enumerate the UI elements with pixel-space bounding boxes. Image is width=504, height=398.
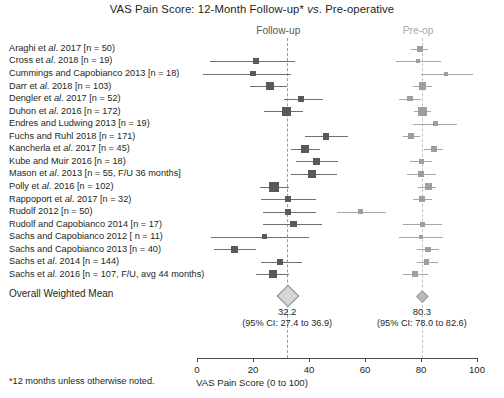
study-marker-preop [419,196,425,202]
study-label-prefix: Dengler et [9,93,54,103]
study-label: Araghi et al. 2017 [n = 50) [9,44,115,53]
study-marker-followup [313,158,320,165]
study-marker-followup [301,145,310,154]
study-marker-preop [412,271,418,277]
study-label-suffix: . 2018 [n = 19) [53,55,113,65]
study-label-prefix: Duhon et [9,106,49,116]
summary-value-followup: 32.2 [247,306,327,317]
study-label-prefix: Endres and Ludwing 2013 [n = 19) [9,118,150,128]
study-label: Cross et al. 2018 [n = 19) [9,56,112,65]
study-label-prefix: Rappoport et [9,194,65,204]
study-label: Cummings and Capobianco 2013 [n = 18) [9,69,179,78]
study-label: Endres and Ludwing 2013 [n = 19) [9,119,150,128]
x-axis-line [197,358,477,359]
study-label-italic: al [65,194,72,204]
study-marker-preop [417,46,423,52]
study-label-prefix: Mason et [9,168,49,178]
column-header-followup: Follow-up [256,25,300,36]
study-label-suffix: . 2016 [n = 172) [56,106,121,116]
study-marker-followup [308,170,316,178]
x-axis-tick-label: 40 [284,364,334,375]
study-marker-preop [418,171,424,177]
study-label-prefix: Fuchs and Ruhl 2018 [n = 171) [9,131,135,141]
study-marker-preop [358,209,363,214]
study-label-italic: al [42,181,49,191]
study-marker-followup [323,133,330,140]
study-marker-preop [419,82,427,90]
study-label-suffix: . 2014 [n = 144) [54,256,119,266]
study-marker-preop [419,159,424,164]
summary-value-preop: 80.3 [382,306,462,317]
study-marker-followup [269,182,279,192]
forest-plot: VAS Pain Score: 12-Month Follow-up* vs. … [0,0,504,398]
study-label-prefix: Kube and Muir 2016 [n = 18) [9,156,126,166]
study-marker-followup [298,96,304,102]
study-label: Sachs and Capobianco 2013 [n = 40) [9,245,161,254]
study-label-suffix: . 2017 [n = 32) [72,194,132,204]
x-axis-tick-label: 60 [340,364,390,375]
study-label-prefix: Rudolf and Capobianco 2014 [n = 17) [9,219,162,229]
study-label: Duhon et al. 2016 [n = 172) [9,107,121,116]
x-axis-tick-label: 100 [452,364,502,375]
study-label: Rudolf 2012 [n = 50) [9,207,93,216]
x-axis-tick-label: 80 [396,364,446,375]
study-label: Kube and Muir 2016 [n = 18) [9,157,126,166]
study-label-italic: al [46,55,53,65]
confidence-interval-followup [203,74,291,75]
study-label-prefix: Araghi et [9,43,48,53]
study-label: Darr et al. 2018 [n = 103) [9,82,111,91]
column-header-preop: Pre-op [403,25,434,36]
x-axis-tick [365,358,366,363]
study-marker-preop [433,121,438,126]
study-marker-followup [269,270,277,278]
study-marker-preop [416,59,421,64]
study-label: Sachs et al. 2014 [n = 144) [9,257,119,266]
study-label-prefix: Sachs and Capobianco 2013 [n = 40) [9,244,161,254]
study-label: Sachs et al. 2016 [n = 107, F/U, avg 44 … [9,270,204,279]
x-axis-tick [197,358,198,363]
summary-diamond-preop [417,290,429,302]
study-label-prefix: Cummings and Capobianco 2013 [n = 18) [9,68,179,78]
study-marker-followup [266,82,274,90]
study-marker-followup [262,234,267,239]
study-label-italic: al [49,168,56,178]
study-label: Sachs and Capobianco 2012 [ n = 11) [9,232,163,241]
study-marker-preop [424,259,430,265]
study-label-suffix: . 2017 [n = 52) [61,93,121,103]
study-label-suffix: . 2016 [n = 107, F/U, avg 44 months) [54,269,204,279]
overall-weighted-mean-label: Overall Weighted Mean [9,288,113,299]
study-label: Mason et al. 2013 [n = 55, F/U 36 months… [9,169,181,178]
study-label-prefix: Kancherla et [9,143,63,153]
study-label: Rappoport et al. 2017 [n = 32) [9,195,131,204]
x-axis-tick [421,358,422,363]
study-marker-followup [285,209,291,215]
title-text-italic: vs [307,3,319,15]
study-label-prefix: Darr et [9,81,40,91]
study-marker-followup [253,58,259,64]
study-label-suffix: . 2017 [n = 50) [55,43,115,53]
study-marker-preop [425,247,431,253]
study-marker-preop [419,235,423,239]
title-text-before: VAS Pain Score: 12-Month Follow-up* [110,3,307,15]
study-label-prefix: Cross et [9,55,46,65]
study-label-suffix: . 2013 [n = 55, F/U 36 months] [57,168,181,178]
study-marker-followup [277,259,283,265]
footnote: *12 months unless otherwise noted. [9,376,155,386]
study-marker-followup [231,246,238,253]
title-text-after: . Pre-operative [319,3,395,15]
x-axis-tick-label: 20 [228,364,278,375]
study-marker-followup [250,71,256,77]
x-axis-tick-label: 0 [172,364,222,375]
study-marker-preop [408,133,414,139]
study-label-italic: al [40,81,47,91]
study-label-prefix: Sachs et [9,269,47,279]
study-marker-preop [425,183,432,190]
confidence-interval-followup [211,237,309,238]
study-label-prefix: Rudolf 2012 [n = 50) [9,206,93,216]
x-axis-tick [309,358,310,363]
x-axis-tick [253,358,254,363]
study-label: Kancherla et al. 2017 [n = 45) [9,144,130,153]
study-marker-preop [420,222,425,227]
study-marker-preop [407,96,413,102]
page-title: VAS Pain Score: 12-Month Follow-up* vs. … [0,3,504,15]
